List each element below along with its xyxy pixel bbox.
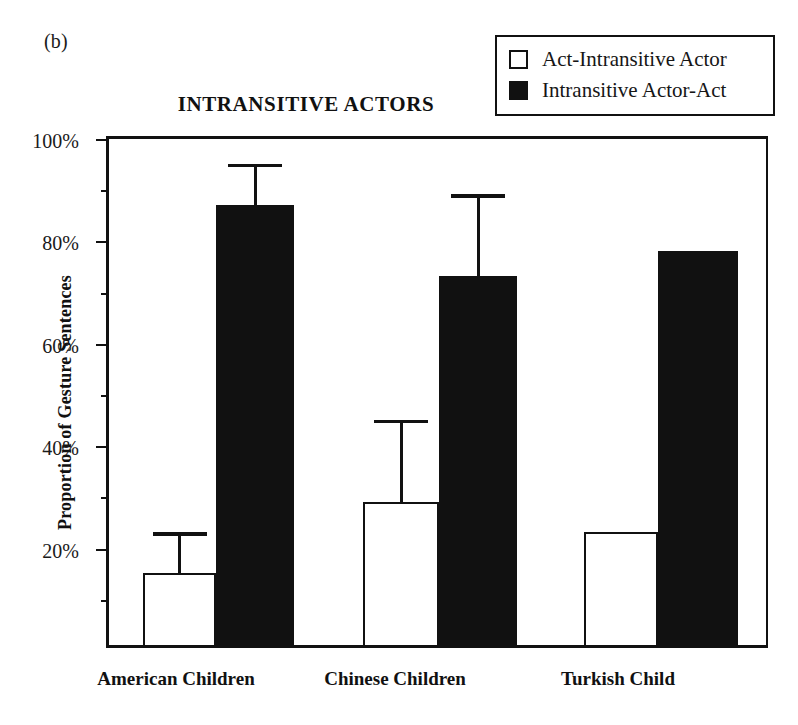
x-axis-label-chinese-children: Chinese Children — [285, 668, 505, 690]
chart-legend: Act-Intransitive Actor Intransitive Acto… — [495, 35, 775, 116]
y-tick-90 — [101, 190, 109, 192]
hollow-square-icon — [509, 50, 528, 69]
errorbar-cap — [153, 532, 207, 536]
y-tick-10 — [101, 600, 109, 602]
y-tick-80: 80% — [96, 241, 109, 243]
y-axis-title: Proportion of Gesture Sentences — [55, 238, 76, 568]
errorbar-stem — [254, 164, 257, 205]
errorbar-american-intransitive-actor-act — [216, 164, 294, 205]
bar-american-intransitive-actor-act — [216, 205, 294, 645]
y-tick-20: 20% — [96, 549, 109, 551]
figure-panel-b: (b) Act-Intransitive Actor Intransitive … — [0, 0, 798, 725]
errorbar-cap — [451, 194, 505, 198]
errorbar-american-act-intransitive-actor — [143, 532, 216, 573]
y-tick-label-60: 60% — [42, 334, 79, 357]
legend-item-act-intransitive-actor: Act-Intransitive Actor — [509, 44, 761, 75]
legend-item-label: Intransitive Actor-Act — [542, 80, 726, 101]
y-tick-70 — [101, 293, 109, 295]
y-tick-label-80: 80% — [42, 232, 79, 255]
x-axis-label-american-children: American Children — [66, 668, 286, 690]
panel-label: (b) — [44, 30, 68, 53]
errorbar-chinese-intransitive-actor-act — [439, 194, 517, 276]
bar-chinese-intransitive-actor-act — [439, 276, 517, 645]
chart-title: INTRANSITIVE ACTORS — [106, 92, 506, 117]
y-tick-label-40: 40% — [42, 437, 79, 460]
filled-square-icon — [509, 81, 528, 100]
errorbar-stem — [178, 532, 181, 573]
y-tick-label-100: 100% — [32, 130, 79, 153]
errorbar-cap — [374, 420, 428, 424]
legend-item-intransitive-actor-act: Intransitive Actor-Act — [509, 75, 761, 106]
errorbar-cap — [228, 164, 282, 168]
x-axis-label-turkish-child: Turkish Child — [508, 668, 728, 690]
legend-item-label: Act-Intransitive Actor — [542, 49, 727, 70]
y-tick-30 — [101, 497, 109, 499]
bar-turkish-act-intransitive-actor — [584, 532, 658, 645]
plot-area: 100% 80% 60% 40% 20% — [106, 136, 768, 648]
y-tick-100: 100% — [96, 139, 109, 141]
y-tick-50 — [101, 395, 109, 397]
bar-chinese-act-intransitive-actor — [363, 502, 439, 645]
y-tick-60: 60% — [96, 344, 109, 346]
errorbar-stem — [400, 420, 403, 502]
errorbar-chinese-act-intransitive-actor — [363, 420, 439, 502]
y-tick-40: 40% — [96, 446, 109, 448]
errorbar-stem — [477, 194, 480, 276]
bar-american-act-intransitive-actor — [143, 573, 216, 645]
y-tick-label-20: 20% — [42, 539, 79, 562]
bar-turkish-intransitive-actor-act — [658, 251, 738, 645]
